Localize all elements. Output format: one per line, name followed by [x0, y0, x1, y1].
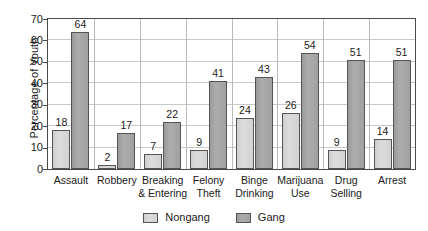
bar-gang-6	[347, 60, 365, 169]
y-axis-tick-group: 706050403020100	[0, 0, 43, 231]
legend-item-nongang: Nongang	[143, 212, 210, 223]
bar-gang-2	[163, 122, 181, 169]
y-axis-tick-label-70: 70	[3, 14, 43, 25]
bar-value-label-gang-7: 51	[386, 47, 418, 58]
bar-value-label-gang-3: 41	[202, 68, 234, 79]
bar-nongang-1	[98, 165, 116, 169]
y-axis-tick-label-20: 20	[3, 121, 43, 132]
legend-item-gang: Gang	[236, 212, 285, 223]
bar-nongang-5	[282, 113, 300, 169]
bar-gang-5	[301, 53, 319, 169]
bar-gang-3	[209, 81, 227, 169]
y-axis-tick-label-50: 50	[3, 56, 43, 67]
plot-inner: 1864217722941244326549511451	[48, 19, 415, 169]
x-axis-category-label-7: Arrest	[359, 174, 425, 187]
legend-label-nongang: Nongang	[165, 212, 210, 223]
y-axis-tick-label-30: 30	[3, 99, 43, 110]
bar-value-label-gang-6: 51	[340, 47, 372, 58]
bar-value-label-gang-1: 17	[110, 120, 142, 131]
bar-value-label-gang-5: 54	[294, 40, 326, 51]
bar-gang-4	[255, 77, 273, 169]
bar-nongang-2	[144, 154, 162, 169]
y-axis-tick-label-10: 10	[3, 142, 43, 153]
bar-gang-0	[71, 32, 89, 169]
category-separator-7	[369, 19, 370, 169]
bar-chart: Percentage of Youth 706050403020100 1864…	[0, 0, 428, 231]
category-label-line: Selling	[313, 187, 379, 200]
category-separator-5	[277, 19, 278, 169]
y-axis-tick-label-0: 0	[3, 164, 43, 175]
category-separator-1	[94, 19, 95, 169]
bar-nongang-3	[190, 150, 208, 169]
plot-area: 1864217722941244326549511451	[47, 18, 416, 170]
bar-value-label-gang-0: 64	[64, 19, 96, 30]
legend-label-gang: Gang	[258, 212, 285, 223]
bar-nongang-4	[236, 118, 254, 169]
category-label-line: Arrest	[359, 174, 425, 187]
nongang-swatch-icon	[143, 213, 158, 223]
gang-swatch-icon	[236, 213, 251, 223]
category-separator-4	[232, 19, 233, 169]
y-axis-tick-label-40: 40	[3, 78, 43, 89]
bar-nongang-0	[52, 130, 70, 169]
bar-gang-7	[393, 60, 411, 169]
bar-nongang-6	[328, 150, 346, 169]
bar-value-label-gang-2: 22	[156, 109, 188, 120]
chart-legend: NongangGang	[0, 212, 428, 223]
bar-nongang-7	[374, 139, 392, 169]
bar-gang-1	[117, 133, 135, 169]
y-axis-tick-label-60: 60	[3, 35, 43, 46]
bar-value-label-gang-4: 43	[248, 64, 280, 75]
